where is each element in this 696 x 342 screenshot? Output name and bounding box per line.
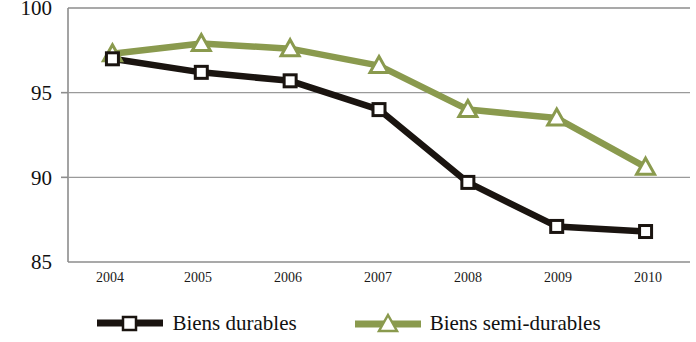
data-point-marker bbox=[462, 176, 474, 188]
x-axis-tick-2006: 2006 bbox=[258, 270, 318, 286]
legend-key-triangle-icon bbox=[353, 312, 423, 334]
x-axis-tick-2004: 2004 bbox=[80, 270, 140, 286]
series-line-0 bbox=[112, 59, 645, 232]
legend-item-biens-semi-durables: Biens semi-durables bbox=[353, 311, 601, 336]
data-point-marker bbox=[195, 66, 207, 78]
legend-key-square-icon bbox=[95, 312, 165, 334]
chart-legend: Biens durables Biens semi-durables bbox=[0, 304, 696, 342]
x-axis-tick-2008: 2008 bbox=[438, 270, 498, 286]
data-point-marker bbox=[106, 53, 118, 65]
legend-item-biens-durables: Biens durables bbox=[95, 311, 296, 336]
legend-label-biens-durables: Biens durables bbox=[172, 311, 296, 336]
data-point-marker bbox=[551, 220, 563, 232]
data-point-marker bbox=[373, 104, 385, 116]
line-chart: 100 95 90 85 2004 2005 2006 2007 2008 20… bbox=[0, 0, 696, 342]
x-axis-tick-2005: 2005 bbox=[168, 270, 228, 286]
x-axis-tick-2010: 2010 bbox=[618, 270, 678, 286]
x-axis-tick-2009: 2009 bbox=[528, 270, 588, 286]
legend-label-biens-semi-durables: Biens semi-durables bbox=[430, 311, 601, 336]
data-point-marker bbox=[640, 226, 652, 238]
data-point-marker bbox=[284, 75, 296, 87]
plot-area bbox=[0, 0, 696, 342]
x-axis-tick-2007: 2007 bbox=[348, 270, 408, 286]
